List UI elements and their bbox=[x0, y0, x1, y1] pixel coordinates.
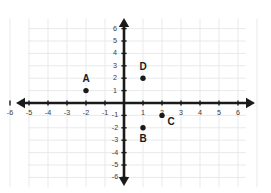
y-axis-tick-label: 2 bbox=[113, 73, 117, 82]
y-axis-tick-label: -1 bbox=[112, 110, 118, 119]
y-axis-tick-label: -3 bbox=[112, 135, 118, 144]
x-axis-tick-label: -1 bbox=[102, 108, 108, 117]
x-axis-tick-label: -6 bbox=[7, 108, 13, 117]
plotted-point-b: B bbox=[139, 125, 146, 144]
x-axis-tick-label: 3 bbox=[179, 108, 183, 117]
x-axis-arrow-left bbox=[16, 98, 25, 108]
plotted-point-a: A bbox=[82, 73, 89, 93]
x-axis-tick-label: -2 bbox=[83, 108, 89, 117]
point-label-d: D bbox=[139, 61, 146, 72]
axes-group bbox=[10, 18, 255, 186]
y-axis-tick-label: -2 bbox=[112, 123, 118, 132]
y-axis-tick-label: 1 bbox=[113, 86, 117, 95]
plotted-point-d: D bbox=[139, 61, 146, 81]
y-axis-tick-label: -4 bbox=[112, 148, 118, 157]
x-axis-arrow-right bbox=[246, 98, 255, 108]
y-axis-tick-label: 4 bbox=[113, 48, 117, 57]
x-axis-tick-label: 6 bbox=[236, 108, 240, 117]
x-axis-tick-label: 1 bbox=[141, 108, 145, 117]
y-axis-arrow-up bbox=[119, 18, 129, 27]
y-axis-tick-label: -6 bbox=[112, 172, 118, 181]
y-axis-tick-label: 6 bbox=[113, 24, 117, 33]
point-marker-a bbox=[83, 88, 88, 93]
point-marker-b bbox=[140, 125, 145, 130]
point-label-b: B bbox=[139, 133, 146, 144]
x-axis-tick-label: -3 bbox=[64, 108, 70, 117]
x-axis-tick-label: 5 bbox=[217, 108, 221, 117]
point-label-c: C bbox=[167, 116, 174, 127]
x-axis-tick-label: -5 bbox=[26, 108, 32, 117]
point-label-a: A bbox=[82, 73, 89, 84]
point-marker-d bbox=[140, 76, 145, 81]
y-axis-tick-label: 5 bbox=[113, 36, 117, 45]
y-axis-tick-label: -5 bbox=[112, 160, 118, 169]
coordinate-plane-svg: -6-5-4-3-2-1123456654321-1-2-3-4-5-6 ABC… bbox=[0, 0, 271, 193]
point-marker-c bbox=[159, 113, 164, 118]
coordinate-plane-figure: -6-5-4-3-2-1123456654321-1-2-3-4-5-6 ABC… bbox=[0, 0, 271, 193]
x-axis-tick-label: -4 bbox=[45, 108, 51, 117]
y-axis-arrow-down bbox=[119, 177, 129, 186]
y-axis-tick-label: 3 bbox=[113, 61, 117, 70]
x-axis-tick-label: 4 bbox=[198, 108, 202, 117]
